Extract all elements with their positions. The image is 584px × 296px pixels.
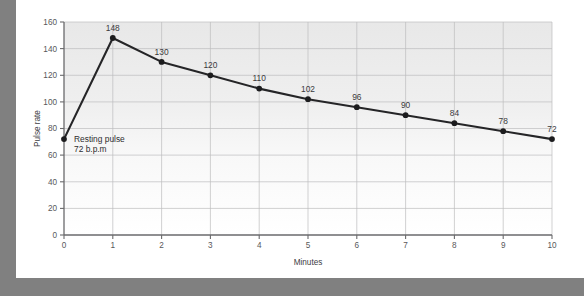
x-tick-label: 9 bbox=[501, 241, 506, 250]
y-axis-title: Pulse rate bbox=[33, 110, 42, 147]
x-tick-label: 2 bbox=[159, 241, 164, 250]
data-point-label: 96 bbox=[352, 92, 362, 102]
screenshot-root: 0 20 40 60 80 100 120 140 160 0 1 2 3 4 bbox=[0, 0, 584, 296]
x-tick-label: 5 bbox=[306, 241, 311, 250]
data-point-marker[interactable] bbox=[452, 120, 458, 126]
x-tick-label: 7 bbox=[403, 241, 408, 250]
data-point-label: 72 bbox=[547, 124, 557, 134]
x-tick-label: 0 bbox=[62, 241, 67, 250]
pulse-rate-line-chart: 0 20 40 60 80 100 120 140 160 0 1 2 3 4 bbox=[16, 0, 584, 278]
x-tick-label: 4 bbox=[257, 241, 262, 250]
y-axis-tick-labels: 0 20 40 60 80 100 120 140 160 bbox=[43, 18, 57, 240]
y-tick-label: 0 bbox=[52, 231, 57, 240]
data-point-marker[interactable] bbox=[549, 136, 555, 142]
data-point-marker[interactable] bbox=[354, 104, 360, 110]
data-point-label: 84 bbox=[450, 108, 460, 118]
x-axis-tick-labels: 0 1 2 3 4 5 6 7 8 9 10 bbox=[62, 241, 557, 250]
data-point-label: 120 bbox=[203, 60, 217, 70]
document-page: 0 20 40 60 80 100 120 140 160 0 1 2 3 4 bbox=[16, 0, 584, 278]
resting-pulse-label-line2: 72 b.p.m bbox=[74, 144, 107, 154]
y-tick-label: 100 bbox=[43, 98, 57, 107]
x-tick-label: 1 bbox=[111, 241, 116, 250]
resting-pulse-label-line1: Resting pulse bbox=[74, 134, 125, 144]
data-point-marker[interactable] bbox=[110, 35, 116, 41]
x-axis-title: Minutes bbox=[294, 258, 323, 267]
y-tick-label: 80 bbox=[48, 124, 58, 133]
x-tick-label: 10 bbox=[547, 241, 557, 250]
data-point-label: 90 bbox=[401, 100, 411, 110]
data-point-marker[interactable] bbox=[305, 96, 311, 102]
data-point-marker[interactable] bbox=[256, 86, 262, 92]
data-point-label: 130 bbox=[155, 47, 169, 57]
y-tick-label: 40 bbox=[48, 178, 58, 187]
y-tick-label: 60 bbox=[48, 151, 58, 160]
x-tick-label: 3 bbox=[208, 241, 213, 250]
data-point-label: 110 bbox=[253, 73, 267, 83]
data-point-marker[interactable] bbox=[159, 59, 165, 65]
chart-canvas: 0 20 40 60 80 100 120 140 160 0 1 2 3 4 bbox=[16, 0, 584, 278]
data-point-label: 148 bbox=[106, 23, 120, 33]
y-tick-label: 160 bbox=[43, 18, 57, 27]
y-tick-label: 20 bbox=[48, 204, 58, 213]
data-point-label: 78 bbox=[499, 116, 509, 126]
data-point-marker[interactable] bbox=[500, 128, 506, 134]
x-tick-label: 8 bbox=[452, 241, 457, 250]
data-point-label: 102 bbox=[301, 84, 315, 94]
x-tick-label: 6 bbox=[355, 241, 360, 250]
data-point-marker[interactable] bbox=[61, 136, 67, 142]
data-point-marker[interactable] bbox=[403, 112, 409, 118]
y-tick-label: 120 bbox=[43, 71, 57, 80]
data-point-marker[interactable] bbox=[208, 72, 214, 78]
y-tick-label: 140 bbox=[43, 45, 57, 54]
